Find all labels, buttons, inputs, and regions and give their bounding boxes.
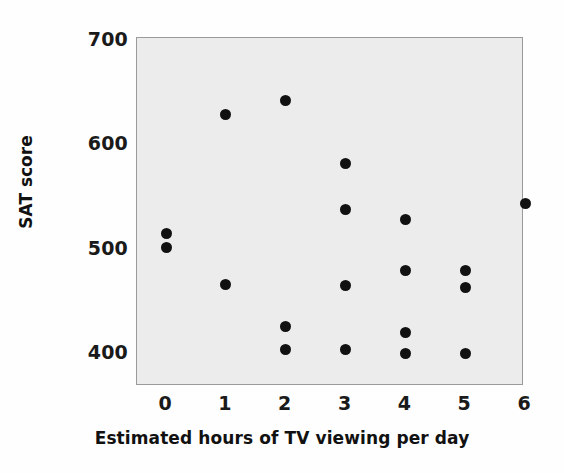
- data-point: [400, 327, 411, 338]
- data-point: [460, 265, 471, 276]
- x-axis-tick-label: 0: [145, 392, 185, 414]
- x-axis-tick-label: 6: [504, 392, 544, 414]
- y-axis-title: SAT score: [16, 112, 36, 252]
- x-axis-tick-label: 5: [444, 392, 484, 414]
- x-axis-title: Estimated hours of TV viewing per day: [0, 428, 564, 448]
- data-point: [400, 348, 411, 359]
- data-point: [400, 265, 411, 276]
- plot-panel: [136, 37, 523, 385]
- y-axis-tick-label: 700: [58, 28, 128, 50]
- y-axis-tick-label: 500: [58, 237, 128, 259]
- data-point: [460, 282, 471, 293]
- data-point: [280, 321, 291, 332]
- data-point: [161, 228, 172, 239]
- data-point: [161, 242, 172, 253]
- x-axis-tick-label: 1: [205, 392, 245, 414]
- data-point: [340, 204, 351, 215]
- y-axis-tick-label: 600: [58, 132, 128, 154]
- x-axis-tick-label: 2: [265, 392, 305, 414]
- y-axis-tick-label: 400: [58, 341, 128, 363]
- data-point: [460, 348, 471, 359]
- x-axis-tick-label: 4: [384, 392, 424, 414]
- scatter-plot-figure: 400500600700 SAT score 0123456 Estimated…: [0, 0, 564, 473]
- data-point: [340, 158, 351, 169]
- data-point: [280, 95, 291, 106]
- data-point: [340, 280, 351, 291]
- data-point: [340, 344, 351, 355]
- data-point: [220, 109, 231, 120]
- x-axis-tick-label: 3: [325, 392, 365, 414]
- data-point: [520, 198, 531, 209]
- data-point: [400, 214, 411, 225]
- x-axis-tick-labels: 0123456: [0, 392, 564, 418]
- plot-data-area: [137, 38, 522, 384]
- data-point: [280, 344, 291, 355]
- data-point: [220, 279, 231, 290]
